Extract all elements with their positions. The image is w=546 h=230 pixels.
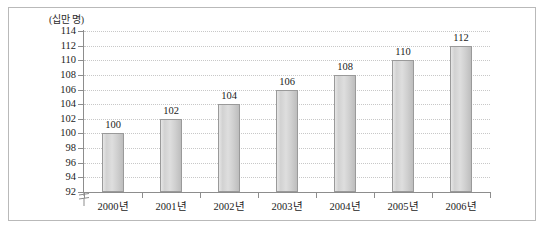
y-axis-tick-label: 106 [36,84,76,95]
bar-value-label: 102 [148,105,194,117]
chart-figure: (십만 명) 11411211010810610410210098969492 … [0,0,546,230]
bar-value-label: 106 [264,76,310,88]
gridline [84,46,490,47]
bar-value-label: 104 [206,90,252,102]
bar [160,119,182,192]
y-axis-tick-labels: 11411211010810610410210098969492 [30,0,76,230]
x-axis-tick-label: 2006년 [426,198,496,213]
y-axis-tick [78,90,84,91]
gridline [84,60,490,61]
y-axis-tick [78,46,84,47]
y-axis-tick-label: 94 [36,171,76,182]
bar [392,60,414,192]
y-axis-tick [78,75,84,76]
y-axis-tick-label: 104 [36,98,76,109]
y-axis-tick-label: 92 [36,186,76,197]
bar [102,133,124,192]
y-axis-tick-label: 114 [36,25,76,36]
bar-value-label: 112 [438,32,484,44]
bar [450,46,472,192]
y-axis-tick [78,177,84,178]
bar-value-label: 110 [380,46,426,58]
y-axis-tick-label: 110 [36,54,76,65]
y-axis-tick-label: 96 [36,157,76,168]
bar [334,75,356,192]
bar-value-label: 108 [322,61,368,73]
y-axis-line [83,30,84,193]
y-axis-tick-label: 112 [36,40,76,51]
bar-value-label: 100 [90,119,136,131]
gridline [84,31,490,32]
y-axis-tick [78,119,84,120]
y-axis-tick [78,148,84,149]
y-axis-tick-label: 100 [36,127,76,138]
plot-area [84,31,490,192]
y-axis-tick [78,31,84,32]
bar [276,90,298,192]
y-axis-tick [78,163,84,164]
y-axis-tick [78,60,84,61]
y-axis-tick-label: 102 [36,113,76,124]
y-axis-tick-label: 108 [36,69,76,80]
y-axis-tick [78,104,84,105]
bar [218,104,240,192]
y-axis-tick [78,133,84,134]
x-axis-line [83,192,491,193]
y-axis-tick-label: 98 [36,142,76,153]
